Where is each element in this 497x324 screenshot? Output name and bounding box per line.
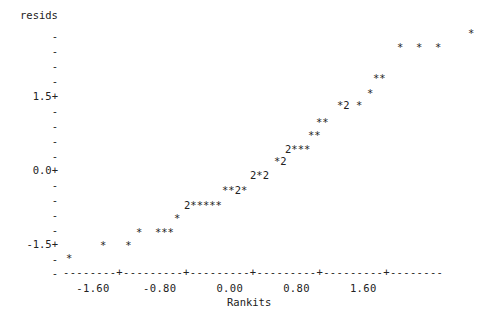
data-point-row: * * [100,239,132,251]
y-axis-tick: - [0,150,58,162]
y-axis-tick: - [0,75,58,87]
y-axis-tick: - [0,179,58,191]
y-axis-tick: - [0,209,58,221]
data-point-row: * [174,212,180,224]
data-point-row: * [367,87,373,99]
y-axis-tick: - [0,105,58,117]
data-point-row: * * * [397,41,441,53]
y-axis-tick: - [0,194,58,206]
y-axis-title: resids [20,9,58,21]
x-axis-tick-labels: -1.60 -0.80 0.00 0.80 1.60 [63,282,377,294]
data-point-row: 2***** [184,199,222,211]
y-axis-tick: - [0,45,58,57]
y-axis-tick: 0.0+ [0,164,58,176]
y-axis-tick: 1.5+ [0,90,58,102]
data-point-row: 2*** [285,143,310,155]
y-axis-tick: - [0,60,58,72]
x-axis-line: --------+---------+---------+---------+-… [63,266,443,278]
data-point-row: * *** [136,226,174,238]
data-point-row: * [468,27,474,39]
data-point-row: * [66,252,72,264]
x-axis-title: Rankits [227,296,271,308]
y-axis-tick: - [0,224,58,236]
data-point-row: **2* [222,184,247,196]
y-axis-tick: - [0,253,58,265]
data-point-row: ** [308,129,321,141]
data-point-row: ** [373,72,386,84]
rankit-plot-canvas: resids ----1.5+----0.0+-----1.5+-- ** * … [0,0,497,324]
data-point-row: *2 * [337,99,362,111]
data-point-row: *2 [274,155,287,167]
y-axis-tick: - [0,135,58,147]
data-point-row: 2*2 [250,169,269,181]
data-point-row: ** [316,116,329,128]
y-axis-tick: - [0,267,58,279]
y-axis-tick: - [0,120,58,132]
y-axis-tick: - [0,30,58,42]
y-axis-tick: -1.5+ [0,238,58,250]
